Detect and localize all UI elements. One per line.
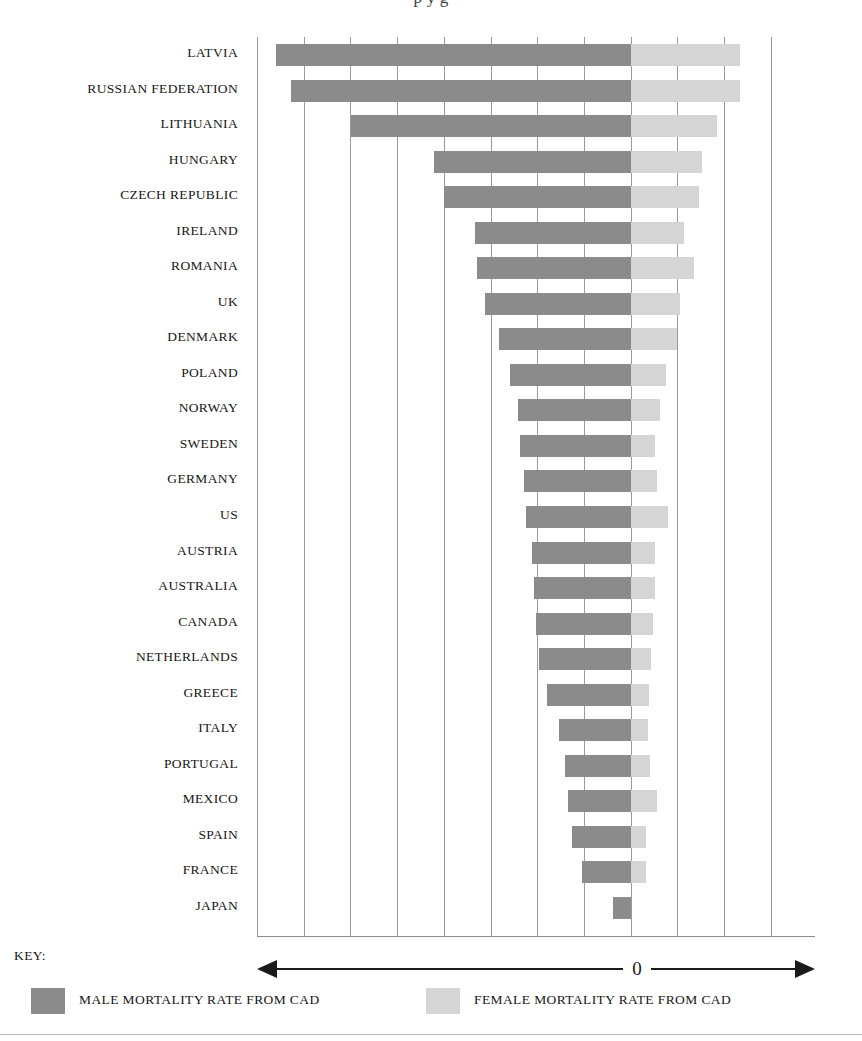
bar-male bbox=[526, 506, 631, 528]
key-label: KEY: bbox=[14, 948, 46, 964]
bar-female bbox=[631, 44, 740, 66]
category-label: NORWAY bbox=[0, 400, 238, 416]
footer-divider bbox=[0, 1034, 862, 1035]
bar-female bbox=[631, 470, 657, 492]
bar-row: GERMANY bbox=[0, 463, 557, 499]
bar-female bbox=[631, 613, 653, 635]
gridline bbox=[771, 37, 772, 937]
bar-male bbox=[510, 364, 631, 386]
bar-male bbox=[518, 399, 631, 421]
figure-title-cropped: p y g bbox=[0, 0, 862, 8]
category-label: AUSTRALIA bbox=[0, 578, 238, 594]
bar-male bbox=[613, 897, 631, 919]
category-label: US bbox=[0, 507, 238, 523]
bar-female bbox=[631, 222, 684, 244]
bar-male bbox=[565, 755, 631, 777]
bar-male bbox=[539, 648, 631, 670]
arrow-right-icon bbox=[795, 960, 815, 978]
category-label: ROMANIA bbox=[0, 258, 238, 274]
category-label: PORTUGAL bbox=[0, 756, 238, 772]
category-label: GERMANY bbox=[0, 471, 238, 487]
category-label: LITHUANIA bbox=[0, 116, 238, 132]
bar-female bbox=[631, 80, 740, 102]
bar-row: JAPAN bbox=[0, 890, 557, 926]
bar-row: AUSTRALIA bbox=[0, 570, 557, 606]
bar-female bbox=[631, 684, 649, 706]
gridline bbox=[724, 37, 725, 937]
bar-male bbox=[477, 257, 631, 279]
bar-female bbox=[631, 790, 657, 812]
bar-male bbox=[568, 790, 631, 812]
category-label: DENMARK bbox=[0, 329, 238, 345]
category-label: MEXICO bbox=[0, 791, 238, 807]
bar-row: NORWAY bbox=[0, 392, 557, 428]
bar-row: DENMARK bbox=[0, 321, 557, 357]
category-label: SWEDEN bbox=[0, 436, 238, 452]
bar-row: GREECE bbox=[0, 677, 557, 713]
bar-row: MEXICO bbox=[0, 783, 557, 819]
axis-arrow: 0 bbox=[257, 957, 815, 981]
bar-row: CZECH REPUBLIC bbox=[0, 179, 557, 215]
category-label: RUSSIAN FEDERATION bbox=[0, 81, 238, 97]
bar-row: PORTUGAL bbox=[0, 748, 557, 784]
bar-male bbox=[276, 44, 631, 66]
bar-female bbox=[631, 542, 655, 564]
bar-female bbox=[631, 115, 717, 137]
axis-baseline bbox=[257, 936, 815, 937]
category-label: LATVIA bbox=[0, 45, 238, 61]
bar-male bbox=[499, 328, 631, 350]
zero-label: 0 bbox=[623, 956, 651, 982]
bar-male bbox=[536, 613, 631, 635]
bar-female bbox=[631, 328, 677, 350]
bar-male bbox=[582, 861, 631, 883]
category-label: CANADA bbox=[0, 614, 238, 630]
bar-row: UK bbox=[0, 286, 557, 322]
bar-male bbox=[547, 684, 631, 706]
bar-female bbox=[631, 861, 646, 883]
category-label: CZECH REPUBLIC bbox=[0, 187, 238, 203]
category-label: GREECE bbox=[0, 685, 238, 701]
bar-row: POLAND bbox=[0, 357, 557, 393]
bar-male bbox=[534, 577, 631, 599]
bar-row: LITHUANIA bbox=[0, 108, 557, 144]
bar-male bbox=[532, 542, 631, 564]
bar-female bbox=[631, 506, 668, 528]
category-label: SPAIN bbox=[0, 827, 238, 843]
bar-female bbox=[631, 186, 699, 208]
bar-female bbox=[631, 648, 651, 670]
bar-row: RUSSIAN FEDERATION bbox=[0, 73, 557, 109]
category-label: POLAND bbox=[0, 365, 238, 381]
bar-female bbox=[631, 719, 648, 741]
bar-female bbox=[631, 364, 666, 386]
category-label: NETHERLANDS bbox=[0, 649, 238, 665]
bar-row: SWEDEN bbox=[0, 428, 557, 464]
bar-row: US bbox=[0, 499, 557, 535]
category-label: JAPAN bbox=[0, 898, 238, 914]
category-label: UK bbox=[0, 294, 238, 310]
bar-female bbox=[631, 435, 655, 457]
bar-male bbox=[351, 115, 631, 137]
category-label: FRANCE bbox=[0, 862, 238, 878]
axis-line bbox=[275, 968, 797, 970]
bar-female bbox=[631, 826, 646, 848]
bar-row: IRELAND bbox=[0, 215, 557, 251]
bar-row: ITALY bbox=[0, 712, 557, 748]
category-label: IRELAND bbox=[0, 223, 238, 239]
arrow-left-icon bbox=[257, 960, 277, 978]
bar-row: NETHERLANDS bbox=[0, 641, 557, 677]
bar-male bbox=[291, 80, 631, 102]
category-label: ITALY bbox=[0, 720, 238, 736]
bar-female bbox=[631, 293, 680, 315]
bar-row: SPAIN bbox=[0, 819, 557, 855]
bar-male bbox=[520, 435, 631, 457]
bar-row: CANADA bbox=[0, 606, 557, 642]
category-label: HUNGARY bbox=[0, 152, 238, 168]
bar-male bbox=[444, 186, 631, 208]
bar-row: ROMANIA bbox=[0, 250, 557, 286]
bar-male bbox=[559, 719, 631, 741]
bar-female bbox=[631, 151, 702, 173]
bar-row: FRANCE bbox=[0, 854, 557, 890]
legend-label-female: FEMALE MORTALITY RATE FROM CAD bbox=[474, 992, 731, 1008]
bar-male bbox=[434, 151, 631, 173]
chart-figure: p y g LATVIARUSSIAN FEDERATIONLITHUANIAH… bbox=[0, 0, 862, 1041]
